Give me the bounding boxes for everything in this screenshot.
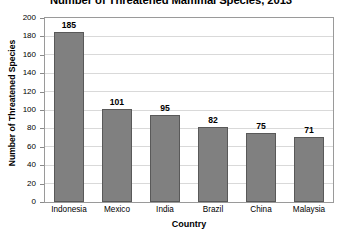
y-tick-mark: [40, 202, 44, 203]
bar-value-label: 95: [150, 104, 181, 113]
bar-chart: Number of Threatened Mammal Species, 201…: [0, 0, 342, 237]
y-tick-mark: [40, 110, 44, 111]
gridline: [45, 183, 333, 184]
bar-value-label: 185: [54, 21, 85, 30]
y-tick-label: 180: [0, 32, 36, 40]
gridline: [45, 110, 333, 111]
y-tick-mark: [40, 55, 44, 56]
y-tick-label: 140: [0, 69, 36, 77]
gridline: [45, 54, 333, 55]
chart-title: Number of Threatened Mammal Species, 201…: [0, 0, 342, 6]
y-tick-label: 200: [0, 14, 36, 22]
bar: [54, 32, 85, 202]
bar-value-label: 82: [198, 116, 229, 125]
bar-value-label: 101: [102, 98, 133, 107]
bar: [150, 115, 181, 202]
y-tick-mark: [40, 18, 44, 19]
y-tick-label: 160: [0, 51, 36, 59]
y-tick-label: 20: [0, 180, 36, 188]
bar-value-label: 71: [294, 126, 325, 135]
y-tick-mark: [40, 92, 44, 93]
y-tick-mark: [40, 184, 44, 185]
y-tick-mark: [40, 73, 44, 74]
y-tick-label: 100: [0, 106, 36, 114]
x-category-label: China: [237, 205, 285, 214]
bar: [246, 133, 277, 202]
y-tick-label: 0: [0, 198, 36, 206]
bar: [198, 127, 229, 202]
y-tick-label: 80: [0, 124, 36, 132]
gridline: [45, 165, 333, 166]
y-tick-label: 40: [0, 161, 36, 169]
gridline: [45, 36, 333, 37]
x-category-label: Brazil: [189, 205, 237, 214]
y-tick-label: 60: [0, 143, 36, 151]
x-category-label: Mexico: [93, 205, 141, 214]
x-axis-title: Country: [44, 219, 334, 229]
x-category-label: Indonesia: [45, 205, 93, 214]
y-tick-mark: [40, 165, 44, 166]
y-tick-label: 120: [0, 88, 36, 96]
x-category-label: India: [141, 205, 189, 214]
bar-value-label: 75: [246, 122, 277, 131]
x-category-label: Malaysia: [285, 205, 333, 214]
bar: [102, 109, 133, 202]
gridline: [45, 128, 333, 129]
gridline: [45, 146, 333, 147]
gridline: [45, 91, 333, 92]
bar: [294, 137, 325, 202]
gridline: [45, 73, 333, 74]
plot-area: [44, 17, 334, 203]
y-tick-mark: [40, 128, 44, 129]
y-tick-mark: [40, 36, 44, 37]
y-tick-mark: [40, 147, 44, 148]
